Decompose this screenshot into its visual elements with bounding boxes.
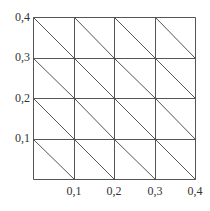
cell-diagonal bbox=[75, 59, 115, 99]
x-tick-label: 0,2 bbox=[107, 184, 122, 198]
y-tick-label: 0,2 bbox=[15, 91, 30, 105]
x-axis-ticks: 0,10,20,30,4 bbox=[67, 184, 203, 198]
cell-diagonal bbox=[156, 140, 196, 180]
triangulated-grid-diagram: 0,10,20,30,4 0,10,20,30,4 bbox=[0, 0, 210, 211]
x-tick-label: 0,4 bbox=[188, 184, 203, 198]
cell-diagonal bbox=[34, 18, 75, 59]
y-tick-label: 0,1 bbox=[15, 131, 30, 145]
x-tick-label: 0,1 bbox=[67, 184, 82, 198]
cell-diagonal bbox=[75, 140, 115, 180]
cell-diagonal bbox=[156, 18, 196, 59]
cell-diagonal bbox=[34, 140, 75, 180]
cell-diagonal bbox=[115, 18, 156, 59]
x-tick-label: 0,3 bbox=[148, 184, 163, 198]
y-axis-ticks: 0,10,20,30,4 bbox=[15, 10, 30, 145]
cell-diagonal bbox=[75, 18, 115, 59]
cell-diagonal bbox=[115, 99, 156, 140]
y-tick-label: 0,3 bbox=[15, 50, 30, 64]
cell-diagonal bbox=[156, 59, 196, 99]
cell-diagonal bbox=[75, 99, 115, 140]
cell-diagonal bbox=[115, 140, 156, 180]
cell-diagonal bbox=[115, 59, 156, 99]
y-tick-label: 0,4 bbox=[15, 10, 30, 24]
cell-diagonal bbox=[156, 99, 196, 140]
cell-diagonal bbox=[34, 99, 75, 140]
cell-diagonal bbox=[34, 59, 75, 99]
